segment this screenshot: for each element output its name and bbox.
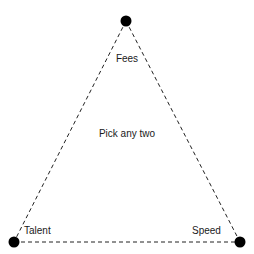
triangle-graphic xyxy=(0,0,254,254)
center-instruction-text: Pick any two xyxy=(99,128,155,139)
vertex-label-talent: Talent xyxy=(24,225,51,236)
vertex-dot-speed xyxy=(235,237,246,248)
constraint-triangle-diagram: Fees Talent Speed Pick any two xyxy=(0,0,254,254)
vertex-dot-fees xyxy=(121,16,132,27)
vertex-dot-talent xyxy=(9,237,20,248)
vertex-label-speed: Speed xyxy=(192,225,221,236)
vertex-label-fees: Fees xyxy=(116,53,138,64)
